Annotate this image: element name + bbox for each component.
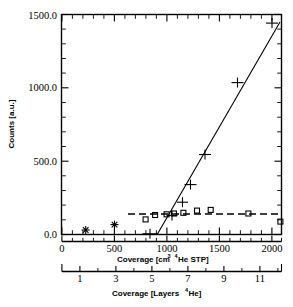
y-tick-label: 1000.0 [28,82,57,93]
x-secondary-title-element: He] [189,289,202,298]
y-tick-label: 0.0 [44,229,57,240]
x-tick-label: 0 [59,243,64,254]
y-tick-label: 500.0 [33,156,57,167]
x2-tick-label: 1 [77,273,82,284]
x-tick-label: 2000 [261,243,282,254]
x-primary-tick-labels: 0 500 1000 1500 2000 [59,243,282,254]
data-point-plus [143,229,158,239]
x-primary-axis-title: Coverage [cm 3 4 He STP] [117,253,209,264]
x-secondary-title-prefix: Coverage [Layers [112,289,180,298]
x-tick-label: 500 [107,243,123,254]
data-point-plus [266,18,278,28]
data-point-square [208,207,213,212]
x-secondary-axis-title: Coverage [Layers 4 He] [112,287,202,298]
x-tick-label: 1000 [156,243,177,254]
chart-figure: 0.0 500.0 1000.0 1500.0 Counts [a.u.] [0,0,293,307]
data-point-plus [232,78,244,88]
x2-tick-label: 9 [221,273,226,284]
x-secondary-tick-labels: 1 3 5 7 9 11 [77,273,265,284]
y-axis-major-ticks [62,15,282,235]
plot-canvas: 0.0 500.0 1000.0 1500.0 Counts [a.u.] [0,0,293,307]
x-tick-label: 1500 [209,243,230,254]
linear-rise-fit-line [157,22,280,235]
x-axis-top-ticks [62,15,272,22]
data-point-square [195,208,200,213]
data-point-square [143,217,148,222]
x-secondary-axis [62,264,282,272]
y-axis-title: Counts [a.u.] [7,99,16,148]
x2-tick-label: 3 [113,273,118,284]
x2-tick-label: 7 [185,273,190,284]
x2-tick-label: 11 [255,273,265,284]
y-tick-label: 1500.0 [28,10,57,21]
y-axis-tick-labels: 0.0 500.0 1000.0 1500.0 [28,10,57,241]
plot-frame [62,15,282,235]
y-axis-minor-ticks [62,29,282,220]
x2-tick-label: 5 [149,273,154,284]
x-primary-axis [62,236,282,242]
data-point-plus [185,180,197,190]
x-primary-title-sup-cm3: 3 [168,253,171,259]
plus-series-markers [143,18,279,239]
x-axis-bottom-frame-ticks [62,228,272,235]
star-series-markers [82,221,119,234]
x-primary-title-element: He STP] [178,255,209,264]
x-primary-title-prefix: Coverage [cm [117,255,170,264]
data-point-plus [177,197,188,207]
data-point-star [111,221,119,229]
